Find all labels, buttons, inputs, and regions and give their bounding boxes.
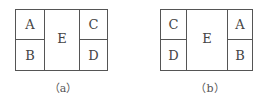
cell-top-left: A <box>16 10 45 40</box>
cell-label: D <box>88 48 98 63</box>
cell-bottom-right: D <box>79 40 107 70</box>
caption-a: （a） <box>43 79 83 95</box>
cell-label: E <box>202 31 212 46</box>
cell-label: A <box>25 17 34 32</box>
cell-label: C <box>89 17 99 32</box>
cell-top-left: C <box>161 10 187 40</box>
cell-label: D <box>168 48 178 63</box>
cell-label: B <box>235 48 245 63</box>
cell-bottom-left: B <box>16 40 45 70</box>
cell-top-right: A <box>227 10 252 40</box>
cell-label: C <box>169 17 179 32</box>
cell-center: E <box>187 10 227 70</box>
layout-diagram-b: C D E A B <box>160 9 253 71</box>
cell-bottom-left: D <box>161 40 187 70</box>
layout-diagram-a: A B E C D <box>15 9 108 71</box>
cell-top-right: C <box>79 10 107 40</box>
cell-center: E <box>45 10 79 70</box>
cell-label: B <box>25 48 35 63</box>
cell-bottom-right: B <box>227 40 252 70</box>
cell-label: E <box>57 31 67 46</box>
caption-b: （b） <box>190 79 230 95</box>
cell-label: A <box>235 17 244 32</box>
